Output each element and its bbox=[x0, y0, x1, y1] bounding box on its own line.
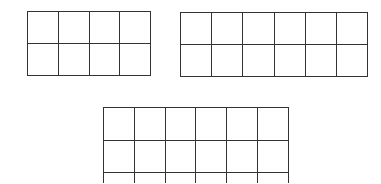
grid-cell bbox=[165, 140, 196, 173]
grid-cell bbox=[243, 45, 274, 77]
grid-cell bbox=[134, 173, 165, 184]
grid-cell bbox=[196, 108, 227, 141]
grid-cell bbox=[181, 45, 212, 77]
grid-row bbox=[104, 108, 289, 141]
grid-row bbox=[181, 13, 368, 45]
grid-cell bbox=[181, 13, 212, 45]
grid-cell bbox=[58, 44, 89, 76]
grid-cell bbox=[336, 45, 367, 77]
grid-cell bbox=[227, 108, 258, 141]
grid-top-right bbox=[180, 12, 368, 77]
grid-cell bbox=[212, 45, 243, 77]
grid-cell bbox=[212, 13, 243, 45]
grid-row bbox=[104, 140, 289, 173]
grid-cell bbox=[227, 173, 258, 184]
grid-table bbox=[103, 107, 289, 183]
grid-cell bbox=[134, 140, 165, 173]
grid-cell bbox=[305, 13, 336, 45]
grid-cell bbox=[104, 140, 135, 173]
grid-cell bbox=[227, 140, 258, 173]
grid-cell bbox=[257, 140, 288, 173]
grid-cell bbox=[257, 108, 288, 141]
grid-cell bbox=[274, 13, 305, 45]
grid-bottom-center bbox=[103, 107, 289, 183]
grid-cell bbox=[120, 12, 151, 44]
grid-cell bbox=[28, 12, 59, 44]
grid-cell bbox=[257, 173, 288, 184]
grid-row bbox=[181, 45, 368, 77]
grid-cell bbox=[104, 108, 135, 141]
grid-cell bbox=[165, 173, 196, 184]
grid-cell bbox=[274, 45, 305, 77]
grid-cell bbox=[89, 12, 120, 44]
grid-cell bbox=[104, 173, 135, 184]
grid-table bbox=[27, 11, 151, 76]
grid-cell bbox=[58, 12, 89, 44]
grid-cell bbox=[196, 173, 227, 184]
grid-row bbox=[28, 44, 151, 76]
grid-cell bbox=[120, 44, 151, 76]
grid-cell bbox=[134, 108, 165, 141]
grid-cell bbox=[243, 13, 274, 45]
grid-cell bbox=[89, 44, 120, 76]
grid-top-left bbox=[27, 11, 151, 76]
grid-table bbox=[180, 12, 368, 77]
grid-row bbox=[104, 173, 289, 184]
grid-row bbox=[28, 12, 151, 44]
grid-cell bbox=[165, 108, 196, 141]
grid-cell bbox=[28, 44, 59, 76]
grid-cell bbox=[196, 140, 227, 173]
grid-cell bbox=[336, 13, 367, 45]
grid-cell bbox=[305, 45, 336, 77]
